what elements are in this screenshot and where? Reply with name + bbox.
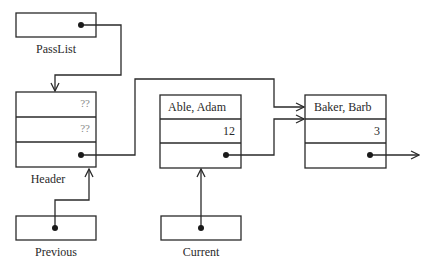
baker-value: 3 <box>305 124 380 139</box>
current-dot <box>198 225 204 231</box>
previous-label: Previous <box>16 245 96 260</box>
current-label: Current <box>161 245 241 260</box>
able-next-dot <box>223 152 229 158</box>
able-value: 12 <box>160 124 235 139</box>
header-label: Header <box>8 172 88 187</box>
able-next-pointer <box>226 119 304 155</box>
header-field1: ?? <box>16 97 90 109</box>
header-next-dot <box>78 152 84 158</box>
passlist-pointer <box>55 25 121 91</box>
previous-dot <box>52 225 58 231</box>
baker-name: Baker, Barb <box>314 100 384 115</box>
header-field2: ?? <box>16 122 90 134</box>
able-name: Able, Adam <box>168 100 238 115</box>
baker-next-dot <box>367 152 373 158</box>
passlist-label: PassList <box>16 42 96 57</box>
passlist-dot <box>78 22 84 28</box>
